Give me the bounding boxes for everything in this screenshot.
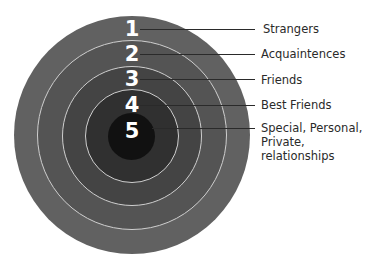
ring-number-1: 1 bbox=[125, 19, 140, 40]
label-strangers: Strangers bbox=[263, 22, 319, 36]
leader-line-2 bbox=[140, 54, 255, 55]
ring-number-4: 4 bbox=[125, 95, 140, 116]
leader-line-3 bbox=[140, 79, 255, 80]
ring-number-2: 2 bbox=[125, 44, 140, 65]
leader-line-5 bbox=[152, 128, 255, 129]
label-best-friends: Best Friends bbox=[261, 98, 331, 112]
label-friends: Friends bbox=[261, 73, 302, 87]
ring-number-3: 3 bbox=[125, 69, 140, 90]
leader-line-4 bbox=[140, 105, 255, 106]
leader-line-1 bbox=[140, 29, 255, 30]
ring-number-5: 5 bbox=[125, 121, 140, 142]
label-special-relationships: Special, Personal, Private, relationship… bbox=[261, 121, 375, 163]
label-acquaintences: Acquaintences bbox=[261, 47, 345, 61]
